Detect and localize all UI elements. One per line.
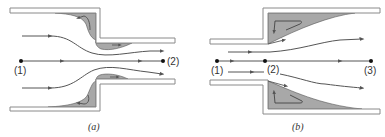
point-2-marker-b [263, 59, 267, 63]
point-1-label: (1) [14, 65, 26, 76]
pipe-flow-figure: (1) (2) (a) (1) (2) (3) (b) [0, 0, 385, 137]
recirculation-region-top [268, 13, 355, 44]
streamline-lower-b-curve [280, 74, 362, 88]
point-1-label-b: (1) [211, 65, 223, 76]
point-2-marker [161, 59, 165, 63]
point-1-marker-b [215, 59, 219, 63]
point-3-marker-b [369, 59, 373, 63]
diagram-b-expansion: (1) (2) (3) (b) [210, 8, 380, 133]
separation-region-bottom-corner [48, 81, 96, 107]
caption-a: (a) [88, 121, 100, 133]
point-2-label: (2) [167, 56, 179, 67]
caption-b: (b) [292, 121, 304, 133]
point-3-label-b: (3) [364, 65, 376, 76]
point-2-label-b: (2) [267, 64, 279, 75]
diagram-a-contraction: (1) (2) (a) [10, 8, 179, 133]
point-1-marker [19, 59, 23, 63]
